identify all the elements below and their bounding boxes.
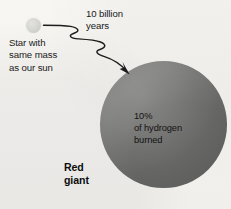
star-caption-label: Star with same mass as our sun [9, 37, 57, 74]
star-sun-icon [26, 18, 41, 33]
hydrogen-burned-label: 10% of hydrogen burned [134, 110, 182, 146]
red-giant-label: Red giant [64, 161, 89, 187]
elapsed-time-label: 10 billion years [86, 8, 123, 33]
star-evolution-diagram: Star with same mass as our sun 10 billio… [0, 0, 231, 209]
